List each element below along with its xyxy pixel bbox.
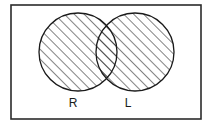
label-r: R: [69, 96, 78, 110]
venn-diagram-canvas: R L: [0, 0, 211, 125]
right-circle-l[interactable]: [96, 13, 174, 91]
venn-diagram-figure: R L: [0, 0, 211, 125]
label-l: L: [125, 96, 132, 110]
